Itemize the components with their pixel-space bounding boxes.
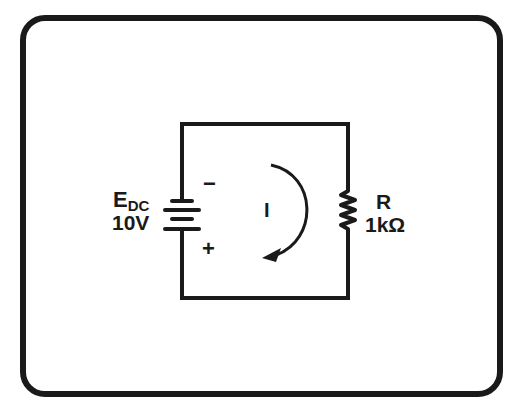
arrowhead-icon (262, 248, 281, 262)
source-symbol-main: E (113, 187, 128, 212)
positive-terminal-label: + (202, 238, 215, 260)
source-value: 10V (112, 212, 149, 233)
negative-terminal-label: − (203, 173, 216, 195)
resistor-value: 1kΩ (365, 214, 405, 235)
current-label: I (264, 200, 270, 220)
battery-icon (165, 201, 199, 229)
source-symbol: EDC (113, 189, 149, 211)
outer-frame (23, 18, 500, 394)
resistor-symbol: R (376, 191, 391, 212)
circuit-diagram (0, 0, 518, 411)
current-arrow-icon (271, 165, 307, 255)
resistor-icon (341, 188, 355, 232)
